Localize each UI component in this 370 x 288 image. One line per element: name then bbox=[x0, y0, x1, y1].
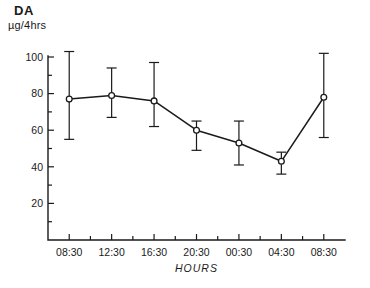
y-tick-label: 100 bbox=[25, 51, 43, 63]
data-point-marker bbox=[194, 127, 200, 133]
data-point-marker bbox=[109, 93, 115, 99]
x-tick-label: 12:30 bbox=[99, 246, 125, 258]
y-tick-label: 40 bbox=[31, 161, 43, 173]
data-point-marker bbox=[151, 98, 157, 104]
x-axis-tick-labels: 08:3012:3016:3020:3000:3004:3008:30 bbox=[56, 246, 337, 258]
data-point-marker bbox=[321, 94, 327, 100]
line-chart-plot: 20406080100 08:3012:3016:3020:3000:3004:… bbox=[0, 0, 370, 288]
y-tick-label: 80 bbox=[31, 87, 43, 99]
y-tick-label: 20 bbox=[31, 197, 43, 209]
y-axis-unit-label: µg/4hrs bbox=[8, 18, 128, 32]
y-axis-ticks bbox=[48, 57, 54, 222]
data-point-marker bbox=[236, 140, 242, 146]
y-axis-tick-labels: 20406080100 bbox=[25, 51, 43, 209]
data-point-marker bbox=[66, 96, 72, 102]
x-tick-label: 08:30 bbox=[311, 246, 337, 258]
y-tick-label: 60 bbox=[31, 124, 43, 136]
data-point-markers bbox=[66, 93, 326, 165]
x-tick-label: 00:30 bbox=[226, 246, 252, 258]
chart-title: DA bbox=[14, 4, 128, 18]
x-axis-title: HOURS bbox=[175, 262, 218, 274]
chart-figure: DA µg/4hrs 20406080100 08:3012:3016:3020… bbox=[0, 0, 370, 288]
error-bars bbox=[64, 52, 329, 175]
x-tick-label: 08:30 bbox=[56, 246, 82, 258]
x-tick-label: 04:30 bbox=[268, 246, 294, 258]
x-tick-label: 16:30 bbox=[141, 246, 167, 258]
x-axis-ticks bbox=[69, 234, 324, 240]
data-point-marker bbox=[278, 158, 284, 164]
x-tick-label: 20:30 bbox=[183, 246, 209, 258]
chart-header: DA µg/4hrs bbox=[8, 4, 128, 32]
